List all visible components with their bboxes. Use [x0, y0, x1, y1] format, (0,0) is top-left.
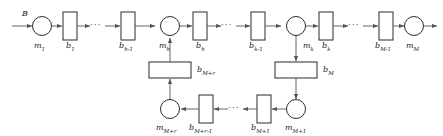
label-machine-mM+r: mM+r — [156, 124, 176, 134]
label-buffer-bM: bM — [323, 66, 334, 76]
machine-mM+r — [161, 100, 180, 119]
label-buffer-bh-1: bh-1 — [119, 42, 133, 52]
label-machine-mh: mh — [159, 42, 170, 52]
label-buffer-bM+r: bM+r — [197, 66, 215, 76]
buffer-b1 — [63, 12, 77, 40]
machine-mM — [405, 17, 424, 36]
label-machine-mk: mk — [303, 42, 314, 52]
buffer-bh — [193, 12, 207, 40]
ellipsis-top-1: ··· — [90, 21, 102, 30]
buffer-bM+r-1 — [199, 95, 213, 123]
label-buffer-bM+r-1: bM+r-1 — [189, 124, 212, 134]
ellipsis-top-3: ··· — [348, 21, 360, 30]
label-machine-m1: m1 — [34, 42, 45, 52]
buffer-bM-1 — [379, 12, 393, 40]
label-buffer-b1: b1 — [66, 42, 75, 52]
label-buffer-bM+1: bM+1 — [251, 124, 270, 134]
label-buffer-bk: bk — [322, 42, 330, 52]
machine-m1 — [33, 17, 52, 36]
buffer-bM+1 — [257, 95, 271, 123]
buffer-bM+r — [149, 62, 191, 78]
buffer-bk — [319, 12, 333, 40]
machine-mM1 — [287, 100, 306, 119]
ellipsis-top-2: ··· — [221, 21, 233, 30]
label-buffer-bM-1: bM-1 — [375, 42, 391, 52]
label-machine-mM: mM — [406, 42, 419, 52]
label-buffer-bh: bh — [196, 42, 205, 52]
ellipsis-bottom-1: ··· — [228, 104, 240, 113]
input-label: B — [22, 10, 28, 18]
label-buffer-bk-1: bk-1 — [249, 42, 263, 52]
buffer-bk-1 — [251, 12, 265, 40]
machine-mh — [161, 17, 180, 36]
machine-mk — [287, 17, 306, 36]
buffer-bM — [275, 62, 317, 78]
buffer-bh-1 — [121, 12, 135, 40]
label-machine-mM+1: mM+1 — [285, 124, 306, 134]
flow-diagram: ··· ··· ··· ··· B m1 mh mk mM b1 bh-1 bh… — [0, 0, 443, 136]
